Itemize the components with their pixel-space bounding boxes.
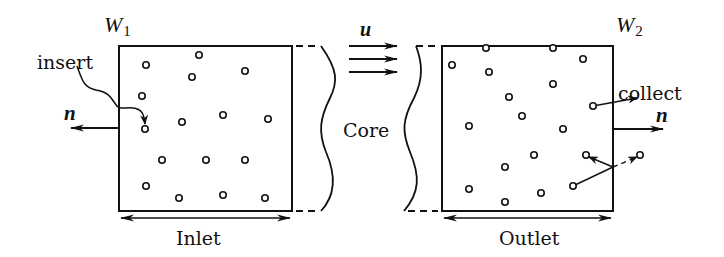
particle-circle: [220, 192, 226, 198]
particle-circle: [502, 199, 508, 205]
velocity-arrows: [349, 46, 397, 72]
particle-circle: [265, 116, 271, 122]
collect-label: collect: [618, 82, 682, 104]
particle-circle: [531, 152, 537, 158]
particle-circle: [196, 52, 202, 58]
particle-circle: [466, 186, 472, 192]
particle-circle: [590, 103, 596, 109]
particle-circle: [143, 183, 149, 189]
particle-circle: [262, 195, 268, 201]
particle-circle: [242, 157, 248, 163]
particle-circle: [142, 126, 148, 132]
particle-circle: [159, 157, 165, 163]
velocity-label: u: [360, 18, 371, 40]
insert-label: insert: [37, 51, 93, 73]
particle-circle: [506, 94, 512, 100]
inlet-label: Inlet: [176, 227, 221, 249]
particle-circle: [550, 45, 556, 51]
particle-circle: [483, 45, 489, 51]
particle-circle: [519, 113, 525, 119]
particle-circle: [179, 119, 185, 125]
reflect-virtual-dashed: [613, 157, 637, 167]
w1-label: W1: [104, 12, 131, 39]
particle-circle: [220, 112, 226, 118]
particle-circle: [449, 62, 455, 68]
particle-circle: [502, 164, 508, 170]
diagram-canvas: W1 W2 u insert collect Core Inlet Outlet…: [0, 0, 724, 257]
particle-circle: [570, 183, 576, 189]
particle-circle: [203, 157, 209, 163]
particle-circle: [486, 69, 492, 75]
inlet-particles: [139, 52, 271, 201]
outlet-label: Outlet: [499, 227, 560, 249]
particle-circle: [550, 81, 556, 87]
reflect-incoming-line: [573, 167, 613, 186]
particle-circle: [176, 195, 182, 201]
particle-circle: [583, 152, 589, 158]
particle-circle: [189, 74, 195, 80]
particle-circle: [580, 56, 586, 62]
particle-circle: [242, 68, 248, 74]
outlet-particles: [449, 45, 643, 205]
particle-circle: [139, 93, 145, 99]
normal-left-label: n: [64, 101, 76, 125]
particle-circle: [637, 152, 643, 158]
particle-circle: [560, 126, 566, 132]
particle-circle: [538, 190, 544, 196]
w2-label: W2: [616, 12, 643, 39]
normal-right-label: n: [656, 103, 668, 127]
particle-circle: [143, 62, 149, 68]
core-break-left-wave: [321, 46, 335, 211]
core-label: Core: [343, 119, 389, 141]
particle-circle: [466, 123, 472, 129]
insert-arrow: [77, 66, 145, 124]
core-break-right-wave: [404, 46, 421, 211]
reflect-outgoing-arrow: [589, 157, 613, 167]
